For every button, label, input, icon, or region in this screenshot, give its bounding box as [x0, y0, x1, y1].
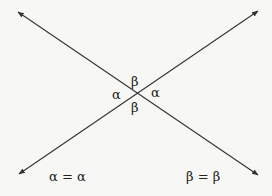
equation-beta: β = β — [186, 170, 220, 183]
angle-label-left: α — [112, 88, 121, 101]
line-2 — [19, 11, 258, 174]
equation-alpha: α = α — [49, 170, 86, 183]
angle-label-right: α — [151, 86, 160, 99]
angle-label-top: β — [131, 75, 139, 88]
angle-label-bottom: β — [131, 101, 139, 114]
intersecting-lines-diagram — [0, 0, 272, 196]
